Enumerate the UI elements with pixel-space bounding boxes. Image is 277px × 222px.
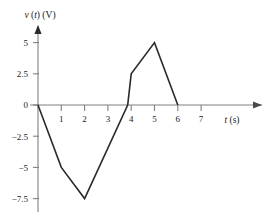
x-tick-label-1: 1 [59, 114, 64, 124]
y-tick-label--5: −5 [18, 163, 28, 173]
x-tick-label-5: 5 [152, 114, 157, 124]
y-tick-label-5: 5 [24, 38, 29, 48]
y-axis-arrowhead [34, 25, 41, 34]
x-axis-label-rest: (s) [227, 115, 239, 126]
x-axis-arrowhead [253, 101, 262, 108]
y-axis-label-rest: ) (V) [37, 10, 56, 21]
chart-figure: 1 2 3 4 5 6 7 5 2.5 0 −2.5 −5 −7.5 v (t)… [0, 0, 277, 222]
y-tick-label--7.5: −7.5 [12, 194, 29, 204]
x-tick-label-7: 7 [199, 114, 204, 124]
x-tick-label-3: 3 [106, 114, 111, 124]
x-tick-label-6: 6 [176, 114, 181, 124]
x-tick-label-2: 2 [82, 114, 87, 124]
y-tick-label-2.5: 2.5 [17, 69, 29, 79]
x-tick-label-4: 4 [129, 114, 134, 124]
y-axis-label: v (t) (V) [24, 10, 55, 21]
chart-plot-area: 1 2 3 4 5 6 7 5 2.5 0 −2.5 −5 −7.5 v (t)… [0, 0, 277, 222]
y-tick-label--2.5: −2.5 [12, 132, 29, 142]
x-axis-label: t (s) [224, 115, 239, 126]
x-axis-ticks [61, 105, 201, 111]
y-tick-label-0: 0 [24, 100, 29, 110]
